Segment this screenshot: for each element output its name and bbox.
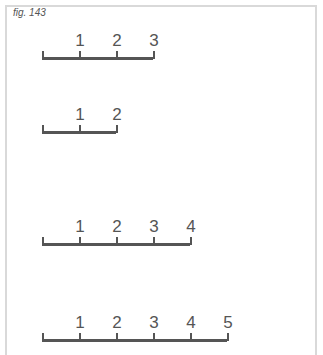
tick-label: 4	[186, 218, 195, 235]
tick-label: 2	[112, 218, 121, 235]
tick-mark	[190, 237, 192, 245]
tick-mark	[42, 237, 44, 245]
tick-label: 1	[75, 314, 84, 331]
number-line-bar	[42, 339, 227, 342]
tick-mark	[153, 51, 155, 59]
tick-mark	[116, 125, 118, 133]
tick-mark	[116, 333, 118, 341]
tick-label: 1	[75, 218, 84, 235]
tick-label: 1	[75, 32, 84, 49]
tick-mark	[190, 333, 192, 341]
tick-mark	[153, 333, 155, 341]
figure-caption: fig. 143	[13, 7, 46, 18]
tick-mark	[227, 333, 229, 341]
tick-mark	[153, 237, 155, 245]
tick-mark	[42, 51, 44, 59]
tick-mark	[79, 125, 81, 133]
tick-label: 2	[112, 32, 121, 49]
tick-mark	[116, 51, 118, 59]
tick-mark	[79, 333, 81, 341]
tick-label: 3	[149, 32, 158, 49]
tick-mark	[79, 51, 81, 59]
tick-label: 3	[149, 218, 158, 235]
tick-mark	[42, 333, 44, 341]
tick-mark	[116, 237, 118, 245]
tick-label: 4	[186, 314, 195, 331]
tick-mark	[42, 125, 44, 133]
tick-label: 3	[149, 314, 158, 331]
tick-label: 1	[75, 106, 84, 123]
tick-label: 5	[223, 314, 232, 331]
number-line-bar	[42, 57, 153, 60]
tick-mark	[79, 237, 81, 245]
tick-label: 2	[112, 106, 121, 123]
tick-label: 2	[112, 314, 121, 331]
